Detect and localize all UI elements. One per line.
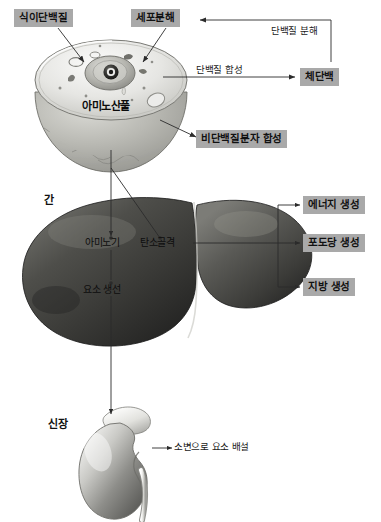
label-body-protein[interactable]: 체단백 <box>300 68 339 86</box>
diagram-canvas: 식이단백질 세포분해 체단백 비단백질분자 합성 에너지 생성 포도당 생성 지… <box>0 0 381 522</box>
liver-illustration <box>22 198 311 347</box>
edge-label-protein-synthesis: 단백질 합성 <box>196 65 242 75</box>
label-kidney: 신장 <box>48 415 67 431</box>
label-nonprotein-synthesis[interactable]: 비단백질분자 합성 <box>196 130 287 148</box>
label-liver: 간 <box>44 191 54 207</box>
label-amino-acid-pool: 아미노산풀 <box>82 97 130 113</box>
kidney-illustration <box>79 407 150 520</box>
edge-label-urea-excretion: 소변으로 요소 배설 <box>174 442 249 452</box>
label-amino-group: 아미노기 <box>85 238 120 248</box>
label-glucose-production[interactable]: 포도당 생성 <box>303 234 365 252</box>
label-fat-production[interactable]: 지방 생성 <box>303 278 355 296</box>
label-energy-production[interactable]: 에너지 생성 <box>303 196 365 214</box>
edge-label-protein-degradation: 단백질 분해 <box>271 26 317 36</box>
label-carbon-skeleton: 탄소골격 <box>140 238 175 248</box>
label-dietary-protein[interactable]: 식이단백질 <box>14 9 73 27</box>
label-cell-breakdown[interactable]: 세포분해 <box>131 9 180 27</box>
label-urea-formation: 요소 생선 <box>83 285 121 295</box>
